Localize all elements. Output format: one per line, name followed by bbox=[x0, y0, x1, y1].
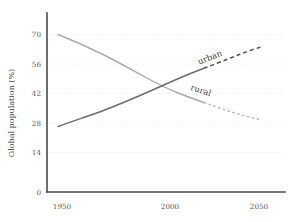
x-tick-labels: 1950 2000 2050 bbox=[53, 202, 269, 211]
y-tick-70: 70 bbox=[32, 30, 42, 39]
y-tick-labels: 70 56 42 28 14 0 bbox=[32, 30, 42, 197]
y-tick-56: 56 bbox=[32, 60, 42, 69]
x-tick-2000: 2000 bbox=[161, 202, 180, 211]
y-tick-0: 0 bbox=[36, 188, 41, 197]
line-chart: 70 56 42 28 14 0 1950 2000 2050 Global p… bbox=[0, 0, 298, 222]
urban-line-historical bbox=[58, 68, 204, 126]
y-tick-28: 28 bbox=[32, 119, 42, 128]
rural-line-historical bbox=[58, 35, 204, 103]
rural-line-projected bbox=[204, 103, 259, 120]
gridlines bbox=[47, 35, 285, 153]
x-tick-1950: 1950 bbox=[53, 202, 72, 211]
chart-container: 70 56 42 28 14 0 1950 2000 2050 Global p… bbox=[0, 0, 298, 222]
x-tick-2050: 2050 bbox=[250, 202, 269, 211]
y-tick-42: 42 bbox=[32, 89, 41, 98]
y-axis-title: Global population (%) bbox=[7, 69, 16, 157]
axes bbox=[47, 13, 285, 192]
rural-series-label: rural bbox=[189, 82, 212, 98]
y-tick-14: 14 bbox=[32, 148, 42, 157]
